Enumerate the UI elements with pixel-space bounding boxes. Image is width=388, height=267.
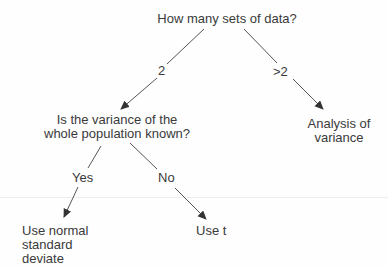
node-anova: Analysis of variance (300, 117, 378, 145)
decision-tree-diagram: How many sets of data? Is the variance o… (0, 0, 388, 267)
node-normal-line-2: standard (22, 238, 88, 252)
edge-label-yes: Yes (71, 171, 94, 185)
node-root-text: How many sets of data? (157, 11, 296, 26)
edge-label-gt2: >2 (272, 65, 289, 79)
edge-label-no: No (157, 171, 176, 185)
node-normal-line-3: deviate (22, 252, 88, 266)
node-variance-line-1: Is the variance of the (36, 113, 198, 127)
node-normal: Use normal standard deviate (22, 224, 88, 266)
node-variance-line-2: whole population known? (36, 127, 198, 141)
node-normal-line-1: Use normal (22, 224, 88, 238)
node-t-test-text: Use t (196, 223, 226, 238)
node-root: How many sets of data? (150, 12, 304, 26)
node-anova-line-2: variance (300, 131, 378, 145)
node-t-test: Use t (196, 224, 226, 238)
node-anova-line-1: Analysis of (300, 117, 378, 131)
node-variance-question: Is the variance of the whole population … (36, 113, 198, 141)
edge-label-2: 2 (157, 64, 166, 78)
